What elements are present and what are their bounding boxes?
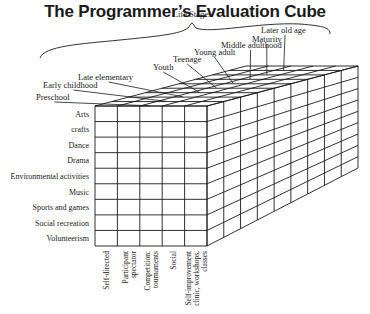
leader-line [250, 50, 251, 79]
life-stage-label: Youth [153, 62, 174, 72]
activity-row-labels: ArtscraftsDanceDramaEnvironmental activi… [11, 110, 90, 243]
activity-row-label: Social recreation [35, 219, 89, 228]
life-stages-label: Life Stages [173, 9, 211, 19]
right-row-line [207, 89, 358, 137]
right-row-line [207, 134, 358, 199]
right-row-line [207, 123, 358, 184]
life-stage-label: Late elementary [78, 72, 134, 82]
leader-line [187, 64, 216, 88]
cube [95, 66, 358, 246]
activity-row-label: Dance [69, 141, 90, 150]
activity-row-label: Sports and games [33, 203, 89, 212]
evaluation-cube-diagram: Life Stages PreschoolEarly childhoodLate… [0, 0, 370, 314]
life-stage-label: Preschool [36, 92, 70, 102]
leader-line [109, 82, 183, 97]
activity-row-label: Environmental activities [11, 172, 89, 181]
life-stage-label: Later old age [261, 25, 306, 35]
right-row-line [207, 100, 358, 153]
format-column-label: spectator [129, 251, 138, 279]
activity-row-label: Music [69, 188, 89, 197]
right-row-line [207, 157, 358, 231]
top-col-line [207, 66, 358, 106]
leader-line [54, 102, 149, 106]
life-stage-label: Maturity [252, 34, 282, 44]
top-col-line [185, 66, 336, 106]
format-column-label: classes [200, 251, 209, 272]
activity-row-label: crafts [71, 125, 89, 134]
leader-line [284, 35, 285, 70]
format-column-labels: Self-directedParticipantspectatorCompeti… [102, 250, 209, 306]
top-col-line [140, 66, 291, 106]
activity-row-label: Drama [67, 156, 89, 165]
format-column-label: tournaments [151, 251, 160, 288]
activity-row-label: Arts [75, 110, 89, 119]
top-col-line [117, 66, 268, 106]
activity-row-label: Volunteerism [46, 234, 89, 243]
life-stage-labels: PreschoolEarly childhoodLate elementaryY… [36, 25, 306, 106]
right-row-line [207, 111, 358, 168]
format-column-label: Social [169, 251, 178, 270]
format-column-label: Self-directed [102, 251, 111, 290]
